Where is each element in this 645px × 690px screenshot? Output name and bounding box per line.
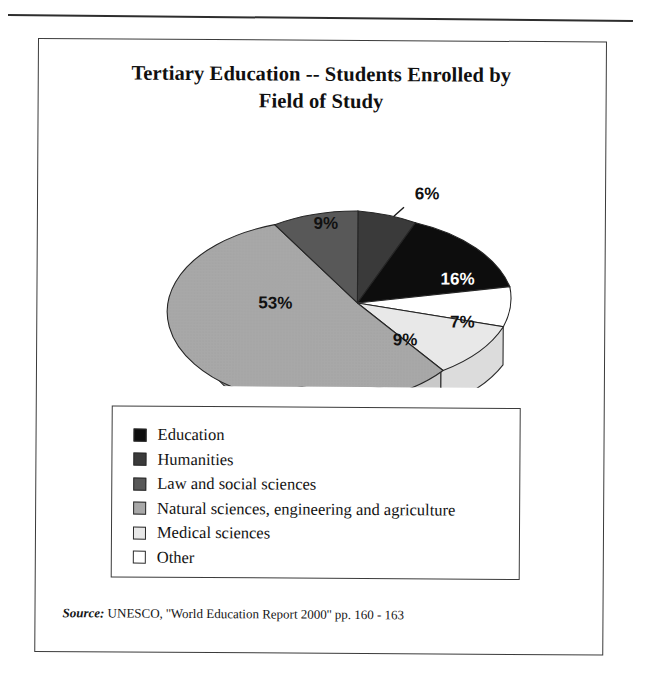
chart-frame: Tertiary Education -- Students Enrolled … — [34, 38, 607, 655]
pie-chart-svg: 6% 16% 7% 9% 53% 9% — [37, 135, 606, 388]
legend-swatch-icon — [133, 502, 146, 515]
legend-item-medical-sciences: Medical sciences — [133, 521, 519, 548]
leader-line-humanities — [394, 207, 404, 216]
legend-label: Medical sciences — [157, 525, 270, 542]
legend-label: Natural sciences, engineering and agricu… — [157, 500, 455, 518]
legend-label: Law and social sciences — [157, 476, 316, 493]
legend-item-education: Education — [134, 423, 520, 450]
legend-label: Education — [158, 427, 225, 444]
pie-label-law: 9% — [314, 214, 339, 233]
pie-label-natural: 53% — [258, 293, 292, 312]
legend-label: Other — [157, 549, 195, 566]
pie-slices — [167, 210, 512, 389]
legend-swatch-icon — [134, 428, 147, 441]
pie-chart: 6% 16% 7% 9% 53% 9% — [37, 135, 606, 388]
legend-swatch-icon — [133, 551, 146, 564]
legend-item-law-and-social-sciences: Law and social sciences — [133, 472, 519, 499]
page-top-rule — [8, 14, 633, 22]
legend-item-other: Other — [133, 545, 519, 572]
pie-label-humanities: 6% — [415, 184, 440, 203]
chart-title: Tertiary Education -- Students Enrolled … — [69, 59, 574, 117]
pie-label-medical: 9% — [393, 330, 418, 349]
legend-swatch-icon — [133, 526, 146, 539]
legend-label: Humanities — [157, 451, 233, 468]
chart-legend: Education Humanities Law and social scie… — [111, 405, 521, 579]
source-text: UNESCO, ''World Education Report 2000'' … — [108, 605, 405, 622]
pie-label-education: 16% — [440, 269, 474, 288]
legend-item-natural-sciences: Natural sciences, engineering and agricu… — [133, 496, 519, 523]
chart-title-line-1: Tertiary Education -- Students Enrolled … — [69, 59, 574, 89]
chart-title-line-2: Field of Study — [69, 86, 574, 116]
pie-label-other: 7% — [450, 313, 475, 332]
legend-swatch-icon — [133, 477, 146, 490]
source-label: Source: — [62, 605, 104, 620]
legend-swatch-icon — [133, 453, 146, 466]
source-note: Source: UNESCO, ''World Education Report… — [62, 605, 404, 623]
legend-item-humanities: Humanities — [133, 447, 519, 474]
